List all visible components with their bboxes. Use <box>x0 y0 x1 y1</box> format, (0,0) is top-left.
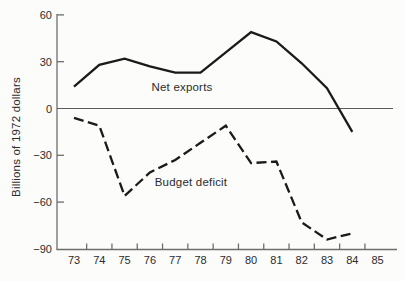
x-tick-label-78: 78 <box>194 254 206 266</box>
net-exports-label: Net exports <box>151 81 212 93</box>
budget-deficit-label: Budget deficit <box>155 176 228 188</box>
y-axis-title: Billions of 1972 dollars <box>10 77 22 197</box>
y-tick-label--30: −30 <box>33 149 52 161</box>
chart: 60300−30−60−9073747576777879808182838485… <box>0 0 405 281</box>
plot-canvas: 60300−30−60−9073747576777879808182838485 <box>0 0 405 281</box>
net-exports-line <box>74 32 352 132</box>
x-tick-label-79: 79 <box>220 254 232 266</box>
y-tick-label-30: 30 <box>40 56 52 68</box>
y-tick-label--90: −90 <box>33 243 52 255</box>
x-tick-label-74: 74 <box>93 254 105 266</box>
x-tick-label-76: 76 <box>144 254 156 266</box>
x-tick-label-77: 77 <box>169 254 181 266</box>
x-tick-label-85: 85 <box>371 254 383 266</box>
x-tick-label-80: 80 <box>245 254 257 266</box>
x-tick-label-81: 81 <box>270 254 282 266</box>
y-tick-label-60: 60 <box>40 9 52 21</box>
y-tick-label-0: 0 <box>46 103 52 115</box>
x-tick-label-83: 83 <box>321 254 333 266</box>
x-tick-label-75: 75 <box>118 254 130 266</box>
x-tick-label-73: 73 <box>68 254 80 266</box>
y-tick-label--60: −60 <box>33 196 52 208</box>
x-tick-label-84: 84 <box>346 254 358 266</box>
x-tick-label-82: 82 <box>296 254 308 266</box>
